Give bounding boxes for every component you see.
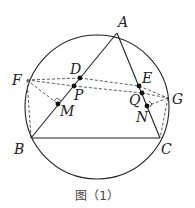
label-c: C: [161, 141, 172, 157]
label-g: G: [172, 91, 183, 107]
geometry-figure: A B C D E F G M N P Q 图（1）: [0, 0, 195, 208]
label-q: Q: [129, 92, 141, 108]
dashed-fd: [27, 78, 80, 80]
dashed-qg: [142, 93, 168, 98]
right-angle-m: [54, 98, 61, 101]
figure-caption: 图（1）: [75, 189, 119, 203]
dot-n: [145, 104, 150, 109]
label-n: N: [135, 109, 149, 125]
label-p: P: [73, 87, 84, 103]
dashed-fp: [27, 80, 74, 86]
label-a: A: [116, 14, 128, 30]
label-d: D: [69, 61, 81, 77]
top-strip: [0, 0, 195, 3]
label-b: B: [13, 141, 24, 157]
dashed-de: [80, 78, 139, 86]
label-f: F: [11, 72, 23, 88]
label-e: E: [141, 70, 152, 86]
dot-e: [137, 84, 142, 89]
label-m: M: [59, 103, 75, 119]
right-angle-n: [149, 101, 152, 107]
